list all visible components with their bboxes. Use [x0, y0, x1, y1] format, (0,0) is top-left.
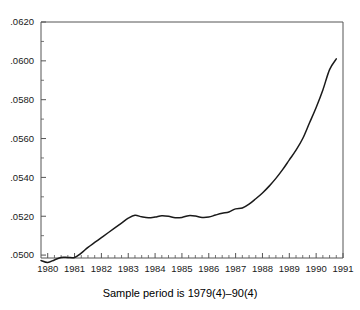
y-tick-label: .0560: [10, 133, 34, 144]
x-tick-label: 1987: [225, 263, 246, 274]
y-tick-label: .0500: [10, 249, 34, 260]
x-tick-label: 1988: [252, 263, 273, 274]
x-tick-label: 1983: [118, 263, 139, 274]
x-tick-label: 1982: [91, 263, 112, 274]
y-tick-label: .0520: [10, 211, 34, 222]
chart-caption: Sample period is 1979(4)–90(4): [103, 287, 258, 299]
line-chart: 1980198119821983198419851986198719881989…: [0, 0, 360, 310]
chart-figure: 1980198119821983198419851986198719881989…: [0, 0, 360, 310]
x-tick-label: 1984: [145, 263, 166, 274]
x-tick-label: 1986: [198, 263, 219, 274]
x-tick-label: 1989: [279, 263, 300, 274]
y-tick-label: .0600: [10, 55, 34, 66]
x-tick-label: 1980: [37, 263, 58, 274]
x-tick-label: 1990: [306, 263, 327, 274]
x-tick-label: 1981: [64, 263, 85, 274]
y-tick-label: .0580: [10, 94, 34, 105]
y-tick-label: .0540: [10, 172, 34, 183]
x-tick-label: 1985: [171, 263, 192, 274]
x-tick-label: 1991: [332, 263, 353, 274]
y-tick-label: .0620: [10, 16, 34, 27]
